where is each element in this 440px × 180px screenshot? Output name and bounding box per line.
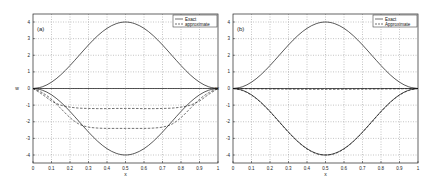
- x-tick-label: 0.3: [285, 166, 292, 171]
- x-tick-label: 0.4: [304, 166, 311, 171]
- y-tick-label: -2: [226, 119, 230, 124]
- tick-labels: 00.10.20.30.40.50.60.70.80.9143210-1-2-3…: [226, 20, 420, 171]
- plot-b: 00.10.20.30.40.50.60.70.80.9143210-1-2-3…: [0, 0, 440, 180]
- legend: ExactApproximate: [373, 15, 417, 27]
- y-tick-label: 4: [227, 20, 230, 25]
- y-tick-label: -1: [226, 103, 230, 108]
- x-tick-label: 0.8: [378, 166, 385, 171]
- x-tick-label: 0.1: [248, 166, 255, 171]
- x-axis-label: x: [324, 171, 327, 177]
- x-tick-label: 0.2: [267, 166, 274, 171]
- y-tick-label: 3: [227, 36, 230, 41]
- panel-b: 00.10.20.30.40.50.60.70.80.9143210-1-2-3…: [0, 0, 220, 180]
- x-tick-label: 0.9: [396, 166, 403, 171]
- x-tick-label: 0.7: [359, 166, 366, 171]
- legend-entry: Approximate: [385, 22, 411, 27]
- y-tick-label: -4: [226, 153, 230, 158]
- y-tick-label: 2: [227, 53, 230, 58]
- y-tick-label: -3: [226, 136, 230, 141]
- panel-label: (b): [237, 26, 244, 32]
- x-tick-label: 1: [417, 166, 420, 171]
- y-tick-label: 0: [227, 86, 230, 91]
- x-tick-label: 0.6: [341, 166, 348, 171]
- x-tick-label: 0: [232, 166, 235, 171]
- y-tick-label: 1: [227, 69, 230, 74]
- y-axis-label: w: [215, 85, 219, 91]
